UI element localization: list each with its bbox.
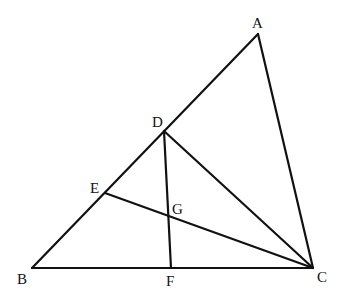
segment-ec <box>105 193 313 268</box>
triangle-diagram: ABCDEFG <box>0 0 343 297</box>
segment-df <box>164 131 171 268</box>
point-label-d: D <box>152 114 163 130</box>
point-label-f: F <box>166 273 174 289</box>
segment-ac <box>258 34 313 268</box>
segment-dc <box>164 131 313 268</box>
labels-group: ABCDEFG <box>17 15 327 289</box>
point-label-b: B <box>17 271 27 287</box>
point-label-e: E <box>90 180 99 196</box>
point-label-c: C <box>317 269 327 285</box>
segments-group <box>32 34 313 268</box>
point-label-a: A <box>252 15 263 31</box>
point-label-g: G <box>172 201 183 217</box>
segment-ab <box>32 34 258 268</box>
